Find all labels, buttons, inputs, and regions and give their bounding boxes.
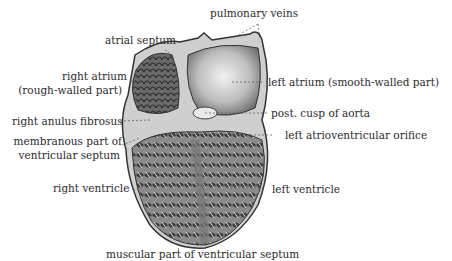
label-left-atrium: left atrium (smooth-walled part) xyxy=(268,76,439,89)
label-right-atrium: right atrium xyxy=(62,70,127,83)
label-left-av-orifice: left atrioventricular orifice xyxy=(285,129,427,142)
label-membranous-septum-sub: ventricular septum xyxy=(19,149,120,162)
label-atrial-septum: atrial septum xyxy=(105,34,176,47)
label-right-ventricle: right ventricle xyxy=(53,182,129,195)
left-atrium-region xyxy=(187,45,260,115)
label-membranous-septum: membranous part of xyxy=(14,135,122,148)
label-muscular-septum: muscular part of ventricular septum xyxy=(106,248,299,261)
label-left-ventricle: left ventricle xyxy=(272,183,340,196)
label-pulmonary-veins: pulmonary veins xyxy=(210,7,298,20)
label-post-cusp-aorta: post. cusp of aorta xyxy=(271,107,370,120)
label-right-atrium-sub: (rough-walled part) xyxy=(18,84,122,97)
label-right-anulus-fibrosus: right anulus fibrosus xyxy=(12,115,123,128)
